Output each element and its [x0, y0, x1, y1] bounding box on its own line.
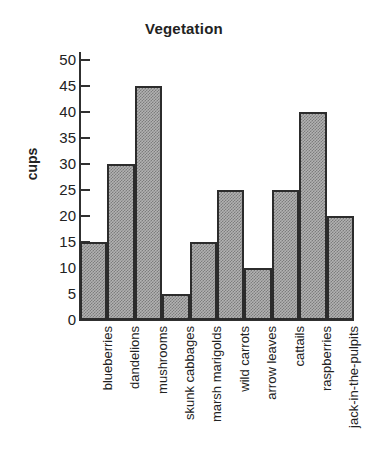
y-tick-label: 0 [16, 310, 76, 329]
bar[interactable] [162, 294, 189, 320]
x-tick-label: skunk cabbages [182, 326, 197, 420]
y-tick-label: 25 [16, 180, 76, 199]
bar[interactable] [217, 190, 244, 320]
bars-group [80, 52, 354, 320]
bar-chart-figure: Vegetation cups 05101520253035404550 blu… [0, 0, 368, 464]
y-tick-label: 45 [16, 76, 76, 95]
y-tick-label: 10 [16, 258, 76, 277]
y-tick-label: 40 [16, 102, 76, 121]
bar[interactable] [327, 216, 354, 320]
x-tick-label: arrow leaves [264, 326, 279, 400]
y-tick-label: 15 [16, 232, 76, 251]
x-tick-label: jack-in-the-pulpits [346, 326, 361, 428]
y-tick-label: 30 [16, 154, 76, 173]
bar[interactable] [190, 242, 217, 320]
x-tick-label: mushrooms [155, 326, 170, 394]
y-tick-label: 35 [16, 128, 76, 147]
y-tick-label: 20 [16, 206, 76, 225]
bar[interactable] [80, 242, 107, 320]
bar[interactable] [135, 86, 162, 320]
bar[interactable] [299, 112, 326, 320]
x-tick-label: cattails [292, 326, 307, 366]
y-tick-label: 50 [16, 50, 76, 69]
x-tick-label: raspberries [319, 326, 334, 391]
bar[interactable] [107, 164, 134, 320]
bar[interactable] [244, 268, 271, 320]
y-tick-label: 5 [16, 284, 76, 303]
bar[interactable] [272, 190, 299, 320]
chart-title: Vegetation [0, 20, 368, 37]
x-tick-label: dandelions [127, 326, 142, 389]
x-tick-label: marsh marigolds [209, 326, 224, 422]
x-tick-label: wild carrots [237, 326, 252, 392]
x-tick-label: blueberries [100, 326, 115, 390]
